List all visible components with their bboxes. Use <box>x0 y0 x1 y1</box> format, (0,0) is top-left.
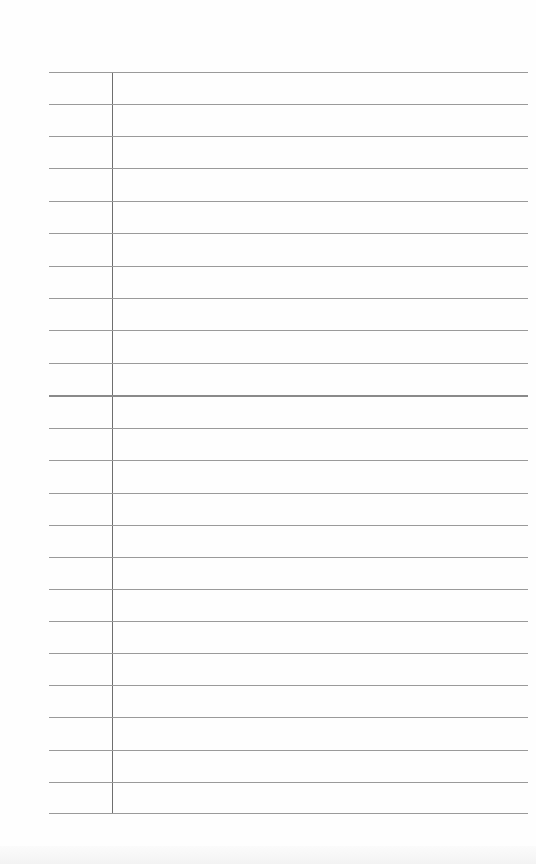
ruled-line <box>49 428 528 429</box>
ruled-line <box>49 782 528 783</box>
ruled-line <box>49 233 528 234</box>
ruled-line <box>49 136 528 137</box>
ruled-line <box>49 557 528 558</box>
lined-paper-sheet <box>0 0 536 864</box>
ruled-line <box>49 493 528 494</box>
ruled-line <box>49 330 528 331</box>
ruled-line <box>49 460 528 461</box>
ruled-line <box>49 168 528 169</box>
ruled-line <box>49 653 528 654</box>
ruled-line <box>49 813 528 814</box>
ruled-line <box>49 201 528 202</box>
ruled-line <box>49 298 528 299</box>
paper-bottom-shadow <box>0 846 536 864</box>
ruled-line <box>49 266 528 267</box>
ruled-line <box>49 685 528 686</box>
ruled-line <box>49 750 528 751</box>
ruled-line <box>49 395 528 397</box>
ruled-line <box>49 104 528 105</box>
ruled-line <box>49 363 528 364</box>
ruled-line <box>49 525 528 526</box>
ruled-line <box>49 589 528 590</box>
ruled-line <box>49 717 528 718</box>
ruled-line <box>49 72 528 73</box>
margin-line <box>112 72 113 814</box>
ruled-line <box>49 621 528 622</box>
